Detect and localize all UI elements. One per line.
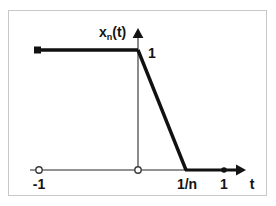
axis-marker-one — [221, 167, 227, 173]
axis-marker-origin — [135, 167, 141, 173]
peak-value-label: 1 — [148, 45, 156, 61]
x-tick-label-minus-one: -1 — [33, 176, 46, 192]
x-axis-label: t — [250, 176, 255, 192]
y-axis-label: xn(t) — [99, 24, 126, 42]
y-axis-label-tail: (t) — [112, 24, 126, 40]
axis-marker-minus-one — [36, 167, 42, 173]
x-tick-label-cutoff: 1/n — [177, 176, 197, 192]
plot-canvas: xn(t) 1 -1 1/n 1 t — [0, 0, 276, 206]
y-axis-label-base: x — [99, 24, 107, 40]
x-tick-label-one: 1 — [220, 176, 228, 192]
signal-plot-figure: xn(t) 1 -1 1/n 1 t — [0, 0, 276, 206]
signal-left-endpoint-marker — [34, 47, 41, 54]
